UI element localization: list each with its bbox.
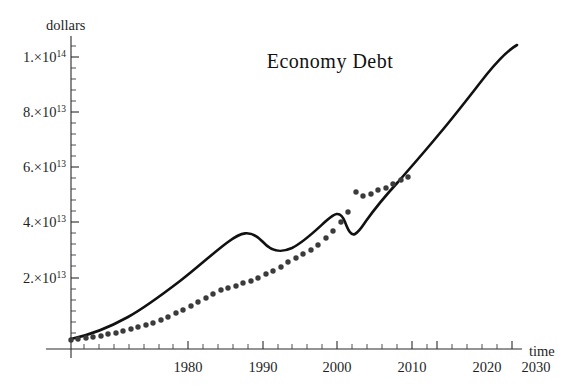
y-axis-caption: dollars — [46, 17, 86, 33]
x-tick-label-1980: 1980 — [174, 359, 203, 375]
chart-plot-area: 1.×1014 8.×1013 6.×1013 4.×1013 2.×1013 … — [0, 0, 569, 386]
y-axis-tick-labels: 1.×1014 8.×1013 6.×1013 4.×1013 2.×1013 — [23, 49, 66, 286]
x-axis-tick-labels: 1980 1990 2000 2010 2020 2030 — [174, 359, 551, 375]
x-tick-label-2030: 2030 — [522, 359, 551, 375]
y-tick-label-3: 6.×1013 — [23, 159, 66, 175]
x-tick-label-2010: 2010 — [398, 359, 427, 375]
x-tick-label-2020: 2020 — [473, 359, 502, 375]
y-tick-label-2: 4.×1013 — [23, 214, 66, 230]
observed-data-points — [68, 174, 410, 342]
economy-debt-chart-figure: 1.×1014 8.×1013 6.×1013 4.×1013 2.×1013 … — [0, 0, 569, 386]
y-tick-label-1: 2.×1013 — [23, 270, 66, 286]
fitted-trend-curve — [71, 45, 517, 339]
x-tick-label-1990: 1990 — [249, 359, 278, 375]
x-tick-label-2000: 2000 — [323, 359, 352, 375]
x-axis-ticks — [84, 341, 512, 349]
x-axis-caption: time — [529, 343, 555, 359]
axis-lines — [46, 36, 522, 358]
chart-title: Economy Debt — [267, 50, 394, 73]
y-tick-label-4: 8.×1013 — [23, 104, 66, 120]
y-axis-ticks — [71, 46, 79, 333]
y-tick-label-5: 1.×1014 — [23, 49, 66, 65]
